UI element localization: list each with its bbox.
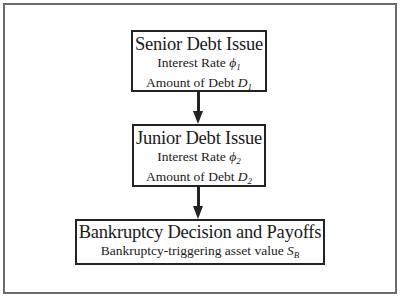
junior-debt-title: Junior Debt Issue bbox=[134, 128, 264, 149]
subscript: B bbox=[294, 250, 300, 260]
senior-interest-rate: Interest Rate ϕ1 bbox=[133, 55, 265, 75]
arrowhead-down-icon bbox=[193, 111, 203, 124]
label: Amount of Debt bbox=[146, 169, 238, 184]
s-symbol: S bbox=[287, 243, 294, 258]
senior-debt-title: Senior Debt Issue bbox=[133, 34, 265, 55]
subscript: 1 bbox=[248, 82, 253, 92]
junior-debt-issue-box: Junior Debt Issue Interest Rate ϕ2 Amoun… bbox=[132, 124, 266, 187]
arrow-junior-to-bankruptcy bbox=[197, 187, 200, 207]
d-symbol: D bbox=[238, 169, 248, 184]
bankruptcy-title: Bankruptcy Decision and Payoffs bbox=[77, 222, 323, 243]
arrow-senior-to-junior bbox=[197, 92, 200, 112]
label: Interest Rate bbox=[157, 55, 229, 70]
label: Bankruptcy-triggering asset value bbox=[101, 243, 287, 258]
bankruptcy-trigger-value: Bankruptcy-triggering asset value SB bbox=[77, 243, 323, 263]
label: Interest Rate bbox=[157, 149, 229, 164]
arrowhead-down-icon bbox=[193, 206, 203, 219]
bankruptcy-decision-box: Bankruptcy Decision and Payoffs Bankrupt… bbox=[75, 219, 325, 265]
d-symbol: D bbox=[238, 75, 248, 90]
label: Amount of Debt bbox=[146, 75, 238, 90]
senior-debt-issue-box: Senior Debt Issue Interest Rate ϕ1 Amoun… bbox=[131, 30, 267, 92]
junior-interest-rate: Interest Rate ϕ2 bbox=[134, 149, 264, 169]
junior-amount-of-debt: Amount of Debt D2 bbox=[134, 169, 264, 189]
subscript: 2 bbox=[236, 156, 241, 166]
subscript: 1 bbox=[236, 62, 241, 72]
subscript: 2 bbox=[248, 176, 253, 186]
